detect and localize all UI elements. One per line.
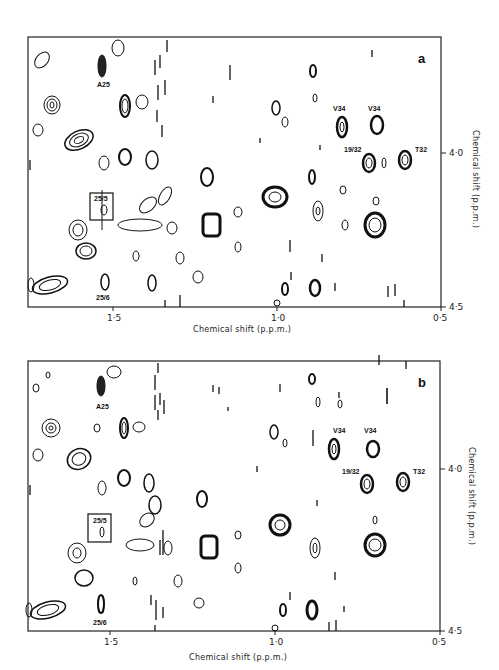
y-tick-label: 4·0 bbox=[448, 464, 463, 474]
x-tick-label: 0·5 bbox=[432, 637, 446, 647]
y-tick-label: 4·5 bbox=[449, 302, 463, 312]
y-axis-label: Chemical shift (p.p.m.) bbox=[471, 130, 480, 228]
peak-label-25-5: 25/5 bbox=[94, 195, 108, 202]
x-tick-label: 1·5 bbox=[104, 637, 118, 647]
y-axis-label: Chemical shift (p.p.m.) bbox=[467, 447, 476, 545]
x-tick-label: 0·5 bbox=[433, 313, 447, 323]
y-tick-label: 4·0 bbox=[449, 148, 464, 158]
peak-label-19-32: 19/32 bbox=[344, 146, 362, 153]
x-tick-label: 1·5 bbox=[107, 313, 121, 323]
panel-label: a bbox=[418, 51, 426, 66]
x-tick-label: 1·0 bbox=[271, 313, 286, 323]
peak-label-v34-1: V34 bbox=[333, 427, 346, 434]
peak-label-v34-1: V34 bbox=[333, 105, 346, 112]
peak-label-25-6: 25/6 bbox=[93, 619, 107, 626]
contour-plot-a: A25 V34 V34 19/32 T32 25/5 25/6 a 1·5 1·… bbox=[0, 0, 499, 335]
x-tick-label: 1·0 bbox=[269, 637, 284, 647]
y-tick-label: 4·5 bbox=[448, 626, 462, 636]
peak-label-t32: T32 bbox=[413, 468, 425, 475]
peak-label-v34-2: V34 bbox=[368, 105, 381, 112]
peak-label-v34-2: V34 bbox=[364, 427, 377, 434]
panel-label: b bbox=[418, 375, 426, 390]
panel-b: A25 V34 V34 19/32 T32 25/5 25/6 b 1·5 1·… bbox=[0, 324, 499, 670]
peak-label-a25: A25 bbox=[96, 403, 109, 410]
peak-label-19-32: 19/32 bbox=[342, 468, 360, 475]
contour-plot-b: A25 V34 V34 19/32 T32 25/5 25/6 b 1·5 1·… bbox=[0, 324, 499, 670]
x-axis-label: Chemical shift (p.p.m.) bbox=[189, 653, 287, 662]
peak-label-a25: A25 bbox=[97, 81, 110, 88]
panel-a: A25 V34 V34 19/32 T32 25/5 25/6 a 1·5 1·… bbox=[0, 0, 499, 335]
peak-label-25-5: 25/5 bbox=[93, 517, 107, 524]
peak-label-t32: T32 bbox=[415, 146, 427, 153]
peak-label-25-6: 25/6 bbox=[96, 294, 110, 301]
